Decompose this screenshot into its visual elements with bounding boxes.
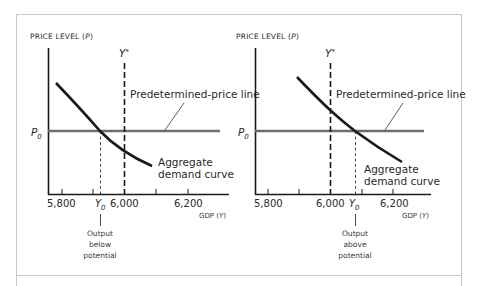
p0-label: P0 — [238, 126, 249, 141]
ad-label-line1: Aggregate — [158, 156, 213, 168]
note-line1: Output — [87, 229, 113, 238]
predetermined-price-label: Predetermined-price line — [130, 88, 260, 100]
potential-output-label: Y* — [325, 47, 335, 59]
ad-label-line1: Aggregate — [364, 163, 419, 175]
y0-label: Y0 — [349, 198, 360, 212]
x-axis-title: GDP (Y) — [402, 212, 429, 220]
y-axis-title: PRICE LEVEL (P) — [30, 32, 93, 41]
y0-label: Y0 — [95, 198, 106, 212]
chart-output-below-potential: PRICE LEVEL (P) Y* P0 Predetermined-pric… — [30, 32, 260, 260]
price-line-leader — [165, 103, 184, 130]
p0-label: P0 — [31, 126, 42, 141]
ad-label-line2: demand curve — [364, 175, 440, 187]
figure: PRICE LEVEL (P) Y* P0 Predetermined-pric… — [0, 0, 477, 286]
note-line1: Output — [342, 229, 368, 238]
predetermined-price-label: Predetermined-price line — [336, 88, 466, 100]
chart-output-above-potential: PRICE LEVEL (P) Y* P0 Predetermined-pric… — [236, 32, 466, 260]
tick-label-6200: 6,200 — [174, 198, 203, 209]
tick-label-6000: 6,000 — [316, 198, 345, 209]
y-axis-title: PRICE LEVEL (P) — [236, 32, 299, 41]
tick-label-6000: 6,000 — [110, 198, 139, 209]
note-line2: below — [89, 240, 111, 249]
potential-output-label: Y* — [119, 47, 129, 59]
tick-label-5800: 5,800 — [47, 198, 76, 209]
note-line3: potential — [83, 251, 116, 260]
note-line3: potential — [338, 251, 371, 260]
note-line2: above — [344, 240, 367, 249]
price-line-leader — [385, 103, 403, 130]
figure-frame — [16, 14, 462, 286]
tick-label-5800: 5,800 — [254, 198, 283, 209]
x-axis-title: GDP (Y) — [199, 212, 226, 220]
tick-label-6200: 6,200 — [380, 198, 409, 209]
ad-label-line2: demand curve — [158, 168, 234, 180]
